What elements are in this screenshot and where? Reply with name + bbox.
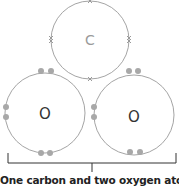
co2-atoms-diagram: C O O (0, 0, 179, 187)
oxygen-atom-left: O (3, 68, 85, 156)
diagram-caption: One carbon and two oxygen atoms (0, 174, 179, 186)
oxygen-left-symbol: O (39, 105, 51, 123)
oxygen-right-symbol: O (128, 108, 140, 126)
oxygen-atom-right: O (91, 68, 174, 155)
grouping-bracket (8, 153, 176, 172)
carbon-symbol: C (85, 32, 95, 48)
carbon-atom: C (49, 0, 131, 81)
electron-cross-top-icon (88, 0, 92, 3)
